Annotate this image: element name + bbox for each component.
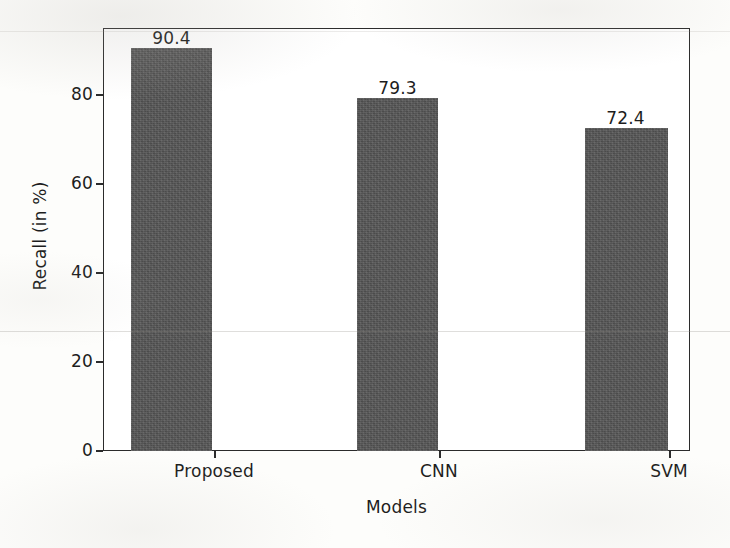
bar-value-label-svm: 72.4 — [584, 108, 667, 128]
bar-value-label-proposed: 90.4 — [131, 28, 212, 48]
x-tick-label-svm: SVM — [599, 461, 730, 481]
y-tick-label-80: 80 — [71, 84, 93, 104]
y-tick-mark-60 — [96, 183, 103, 185]
bar-cnn — [357, 98, 438, 451]
x-tick-mark-cnn — [439, 451, 441, 458]
x-tick-mark-svm — [669, 451, 671, 458]
y-axis-title: Recall (in %) — [30, 136, 50, 336]
y-tick-label-60: 60 — [71, 173, 93, 193]
bar-proposed — [131, 48, 212, 451]
y-tick-label-20: 20 — [71, 351, 93, 371]
y-tick-label-40: 40 — [71, 262, 93, 282]
bar-svm — [585, 128, 668, 451]
bar-value-label-cnn: 79.3 — [357, 78, 438, 98]
x-tick-label-proposed: Proposed — [144, 461, 284, 481]
y-tick-mark-20 — [96, 361, 103, 363]
bar-chart: 0 20 40 60 80 90.4 79.3 72.4 Proposed CN… — [0, 0, 730, 548]
y-tick-mark-80 — [96, 94, 103, 96]
y-tick-mark-0 — [96, 450, 103, 452]
y-tick-label-0: 0 — [82, 440, 93, 460]
x-tick-mark-proposed — [214, 451, 216, 458]
x-tick-label-cnn: CNN — [369, 461, 509, 481]
y-tick-mark-40 — [96, 272, 103, 274]
x-axis-title: Models — [103, 497, 690, 517]
